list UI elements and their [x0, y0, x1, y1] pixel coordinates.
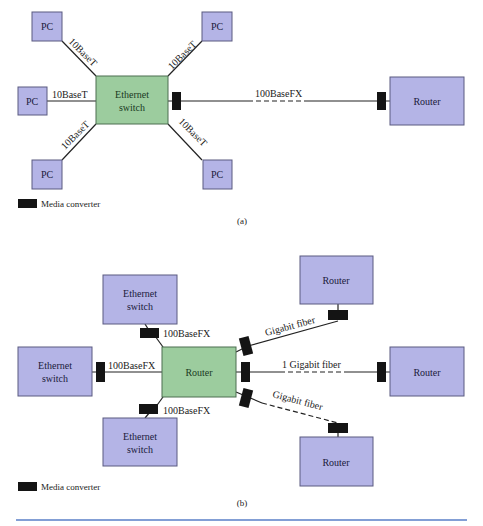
- link-label-bottom-switch: 100BaseFX: [163, 405, 211, 416]
- link-label-left: 10BaseT: [52, 89, 88, 100]
- pc-label: PC: [211, 169, 224, 180]
- switch-label-line2: switch: [127, 301, 153, 312]
- pc-top-left: PC: [32, 12, 62, 41]
- router-label: Router: [413, 367, 441, 378]
- legend-label: Media converter: [41, 199, 100, 209]
- switch-label-line1: Ethernet: [38, 360, 72, 371]
- core-router-label: Router: [185, 367, 213, 378]
- switch-label-line1: Ethernet: [123, 288, 157, 299]
- media-converter-icon: [140, 328, 159, 338]
- ethernet-switch-bottom: Ethernet switch: [103, 418, 177, 466]
- legend-media-converter-icon: [18, 482, 37, 491]
- router-right: Router: [390, 347, 464, 396]
- router-label: Router: [413, 96, 441, 107]
- link-label-bottom-router: Gigabit fiber: [271, 388, 324, 412]
- switch-label-line2: switch: [119, 102, 145, 113]
- media-converter-icon: [328, 423, 348, 433]
- media-converter-icon: [239, 336, 253, 356]
- media-converter-icon: [239, 388, 253, 408]
- legend-label: Media converter: [41, 482, 100, 492]
- ethernet-switch-top: Ethernet switch: [103, 275, 177, 324]
- pc-left: PC: [18, 87, 47, 115]
- switch-label-line1: Ethernet: [123, 431, 157, 442]
- pc-bottom-right: PC: [203, 160, 232, 189]
- network-diagram: PC PC PC PC PC Ethernet switch Router: [0, 0, 483, 526]
- link-label-left-switch: 100BaseFX: [108, 360, 156, 371]
- link-label-top-left: 10BaseT: [67, 36, 100, 69]
- router-label: Router: [322, 457, 350, 468]
- router-top: Router: [300, 256, 373, 304]
- pc-label: PC: [26, 96, 39, 107]
- media-converter-icon: [172, 92, 181, 110]
- link-label-top-right: 10BaseT: [166, 39, 199, 72]
- media-converter-icon: [96, 362, 105, 382]
- router-a: Router: [390, 77, 464, 125]
- media-converter-icon: [377, 362, 386, 382]
- switch-label-line2: switch: [127, 444, 153, 455]
- caption-b: (b): [237, 498, 248, 508]
- figure-a: PC PC PC PC PC Ethernet switch Router: [18, 12, 464, 226]
- ethernet-switch-left: Ethernet switch: [18, 347, 92, 396]
- link-label-bottom-right: 10BaseT: [177, 116, 210, 149]
- figure-b: Ethernet switch Ethernet switch Ethernet…: [18, 256, 464, 508]
- caption-a: (a): [237, 216, 247, 226]
- pc-bottom-left: PC: [32, 160, 62, 189]
- router-label: Router: [322, 275, 350, 286]
- pc-top-right: PC: [202, 12, 232, 41]
- media-converter-icon: [139, 404, 158, 414]
- router-core: Router: [162, 347, 236, 397]
- link-label-uplink: 100BaseFX: [255, 88, 303, 99]
- pc-label: PC: [211, 21, 224, 32]
- media-converter-icon: [241, 362, 250, 382]
- media-converter-icon: [377, 92, 386, 110]
- link-label-top-switch: 100BaseFX: [163, 328, 211, 339]
- link-label-right-router: 1 Gigabit fiber: [282, 359, 342, 370]
- media-converter-icon: [328, 310, 348, 320]
- ethernet-switch-a: Ethernet switch: [96, 76, 168, 124]
- switch-label-line1: Ethernet: [115, 89, 149, 100]
- router-bottom: Router: [300, 437, 373, 486]
- legend-media-converter-icon: [18, 199, 37, 208]
- pc-label: PC: [41, 21, 54, 32]
- pc-label: PC: [41, 169, 54, 180]
- switch-label-line2: switch: [42, 373, 68, 384]
